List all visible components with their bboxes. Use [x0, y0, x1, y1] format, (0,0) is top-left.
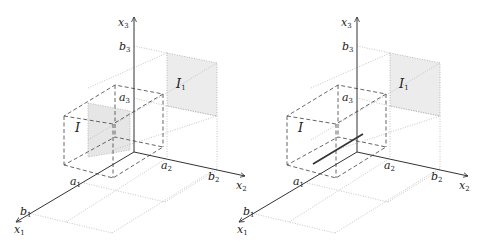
figure-right: x3 b3 a3 I I1 a2 b2 x2 a1 b1 x1	[237, 16, 470, 237]
x3-label: x3	[341, 16, 352, 30]
x2-label: x2	[459, 179, 470, 193]
x3-label: x3	[118, 16, 129, 30]
x1-label: x1	[237, 223, 248, 237]
a1-label: a1	[293, 175, 304, 189]
b1-label: b1	[243, 205, 255, 219]
slice-i-shaded	[88, 103, 130, 157]
a2-label: a2	[161, 159, 172, 173]
b3-label: b3	[119, 40, 131, 54]
box-i-label: I	[297, 120, 304, 135]
box-i-label: I	[74, 120, 81, 135]
x2-label: x2	[236, 179, 247, 193]
figure-left: x3 b3 a3 I I1 a2 b2 x2 a1 b1 x1	[14, 16, 247, 237]
b3-label: b3	[342, 40, 354, 54]
b2-label: b2	[208, 170, 220, 184]
b2-label: b2	[431, 170, 443, 184]
x1-label: x1	[14, 223, 25, 237]
a2-label: a2	[384, 159, 395, 173]
solid-segment	[313, 134, 363, 164]
a3-label: a3	[342, 91, 353, 105]
a3-label: a3	[119, 91, 130, 105]
diagram-canvas: x3 b3 a3 I I1 a2 b2 x2 a1 b1 x1 x3 b3 a3…	[0, 0, 485, 247]
b1-label: b1	[20, 205, 32, 219]
a1-label: a1	[70, 175, 81, 189]
